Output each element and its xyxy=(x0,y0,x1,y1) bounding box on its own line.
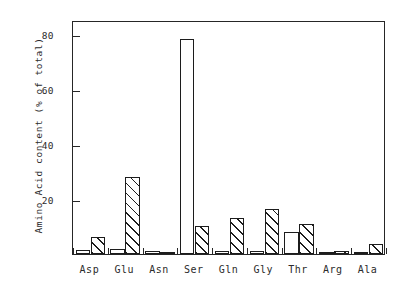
bar-open-arg xyxy=(319,252,334,254)
bar-open-gly xyxy=(250,251,265,254)
bar-hatched-asp xyxy=(91,237,106,254)
x-axis-tick xyxy=(316,248,317,254)
bar-open-thr xyxy=(284,232,299,254)
y-axis-tick xyxy=(73,201,80,202)
x-axis-tick-label-gly: Gly xyxy=(253,264,273,275)
bar-open-asp xyxy=(76,250,91,254)
bar-hatched-arg xyxy=(334,251,349,254)
chart-figure: Amino Acid content (% of total) 20406080… xyxy=(0,0,404,304)
x-axis-tick-label-gln: Gln xyxy=(219,264,239,275)
y-axis-tick xyxy=(73,91,80,92)
bar-open-asn xyxy=(145,251,160,254)
bar-open-gln xyxy=(215,251,230,254)
y-axis-tick-label: 20 xyxy=(0,194,62,205)
x-axis-tick-label-asn: Asn xyxy=(149,264,169,275)
x-axis-tick-label-asp: Asp xyxy=(80,264,100,275)
bar-hatched-thr xyxy=(299,224,314,254)
bar-hatched-gly xyxy=(265,209,280,254)
y-axis-title: Amino Acid content (% of total) xyxy=(33,6,44,266)
x-axis-tick xyxy=(143,248,144,254)
x-axis-tick-label-arg: Arg xyxy=(323,264,343,275)
y-axis-tick xyxy=(73,36,80,37)
plot-area xyxy=(72,21,385,255)
x-axis-tick xyxy=(247,248,248,254)
y-axis-tick xyxy=(73,146,80,147)
bar-open-glu xyxy=(110,249,125,255)
x-axis-tick-label-glu: Glu xyxy=(114,264,134,275)
x-axis-tick xyxy=(108,248,109,254)
x-axis-tick xyxy=(282,248,283,254)
y-axis-tick-label: 60 xyxy=(0,84,62,95)
x-axis-tick xyxy=(212,248,213,254)
x-axis-tick xyxy=(351,248,352,254)
y-axis-tick-label: 40 xyxy=(0,139,62,150)
bar-open-ala xyxy=(354,252,369,254)
y-axis-tick-label: 80 xyxy=(0,29,62,40)
bar-open-ser xyxy=(180,39,195,254)
bar-hatched-gln xyxy=(230,218,245,254)
x-axis-tick-label-thr: Thr xyxy=(288,264,308,275)
bar-hatched-ser xyxy=(195,226,210,254)
x-axis-tick-label-ser: Ser xyxy=(184,264,204,275)
x-axis-tick-label-ala: Ala xyxy=(358,264,378,275)
bar-hatched-asn xyxy=(160,252,175,254)
bar-hatched-ala xyxy=(369,244,384,254)
x-axis-tick xyxy=(177,248,178,254)
x-axis-tick xyxy=(73,248,74,254)
bar-hatched-glu xyxy=(125,177,140,254)
x-axis-tick xyxy=(386,248,387,254)
